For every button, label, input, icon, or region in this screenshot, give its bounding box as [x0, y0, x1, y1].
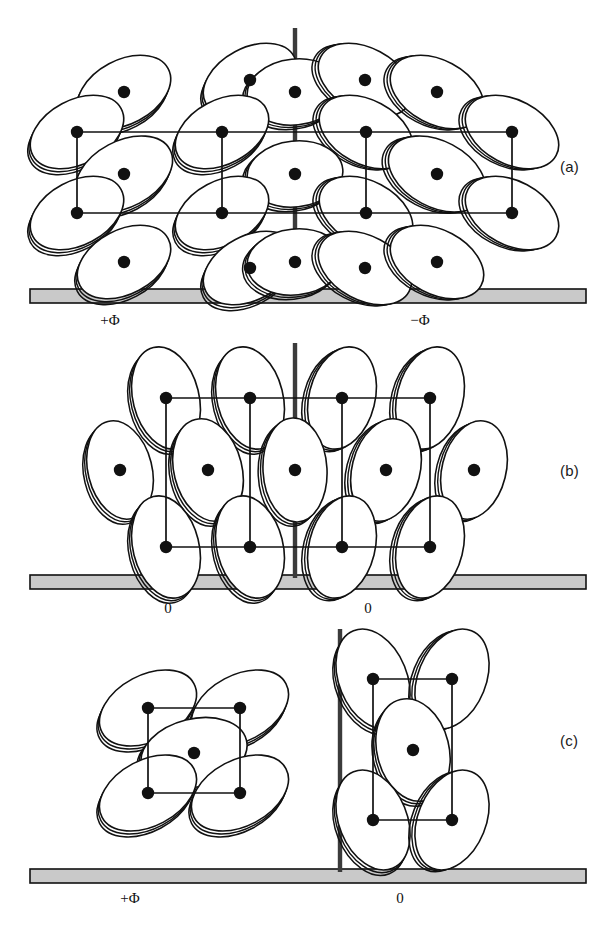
- lattice-node-dot: [289, 256, 301, 268]
- lattice-node-dot: [468, 464, 480, 476]
- lattice-node-dot: [118, 86, 130, 98]
- substrate-bar: [30, 869, 586, 883]
- lattice-node-dot: [431, 256, 443, 268]
- lattice-node-dot: [506, 207, 518, 219]
- lattice-node-dot: [118, 256, 130, 268]
- lattice-node-dot: [234, 787, 246, 799]
- lattice-node-dot: [446, 814, 458, 826]
- lattice-node-dot: [360, 207, 372, 219]
- lattice-node-dot: [506, 126, 518, 138]
- lattice-node-dot: [244, 392, 256, 404]
- lattice-node-dot: [289, 168, 301, 180]
- domain-tilt-label: −Φ: [380, 312, 460, 329]
- lattice-node-dot: [380, 464, 392, 476]
- lattice-node-dot: [360, 126, 372, 138]
- lattice-node-dot: [289, 464, 301, 476]
- lattice-node-dot: [431, 86, 443, 98]
- panel-b-letter: (b): [560, 462, 579, 479]
- lattice-node-dot: [142, 702, 154, 714]
- domain-tilt-label: 0: [360, 890, 440, 907]
- lattice-node-dot: [407, 744, 419, 756]
- lattice-node-dot: [424, 392, 436, 404]
- lattice-node-dot: [216, 126, 228, 138]
- lattice-node-dot: [446, 673, 458, 685]
- lattice-node-dot: [359, 262, 371, 274]
- lattice-node-dot: [188, 747, 200, 759]
- disc-layer: [82, 620, 503, 887]
- lattice-node-dot: [71, 207, 83, 219]
- lattice-node-dot: [142, 787, 154, 799]
- lattice-node-dot: [367, 814, 379, 826]
- lattice-node-dot: [244, 541, 256, 553]
- lattice-node-dot: [114, 464, 126, 476]
- lattice-node-dot: [289, 86, 301, 98]
- panel-a-graphic: [0, 0, 614, 330]
- lattice-node-dot: [244, 262, 256, 274]
- lattice-node-dot: [431, 168, 443, 180]
- domain-tilt-label: +Φ: [90, 890, 170, 907]
- domain-tilt-label: +Φ: [70, 312, 150, 329]
- lattice-node-dot: [71, 126, 83, 138]
- domain-tilt-label: 0: [128, 600, 208, 617]
- lattice-node-dot: [367, 673, 379, 685]
- panel-a-letter: (a): [560, 158, 579, 175]
- panel-b-graphic: [0, 330, 614, 620]
- lattice-node-dot: [359, 74, 371, 86]
- lattice-node-dot: [202, 464, 214, 476]
- figure-root: (a) (b) (c) +Φ−Φ00+Φ0: [0, 0, 614, 937]
- domain-tilt-label: 0: [328, 600, 408, 617]
- lattice-node-dot: [424, 541, 436, 553]
- lattice-node-dot: [216, 207, 228, 219]
- lattice-node-dot: [336, 541, 348, 553]
- lattice-node-dot: [160, 541, 172, 553]
- panel-c-letter: (c): [560, 732, 578, 749]
- lattice-node-dot: [234, 702, 246, 714]
- lattice-node-dot: [244, 74, 256, 86]
- lattice-node-dot: [336, 392, 348, 404]
- lattice-node-dot: [118, 168, 130, 180]
- lattice-node-dot: [160, 392, 172, 404]
